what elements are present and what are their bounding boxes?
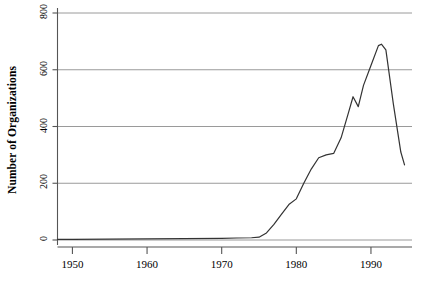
y-tick-label-0: 0 <box>34 233 52 247</box>
gridlines-group <box>58 13 413 240</box>
y-tick-label-text: 800 <box>38 3 49 21</box>
x-tick-label-1950: 1950 <box>47 258 97 270</box>
x-tick-label-1990: 1990 <box>346 258 396 270</box>
y-tick-label-200: 200 <box>34 176 52 190</box>
y-axis-title-wrapper: Number of Organizations <box>0 0 24 260</box>
x-tick-label-1970: 1970 <box>197 258 247 270</box>
chart-figure: Number of Organizations 0200400600800 19… <box>0 0 422 296</box>
x-tick-label-1980: 1980 <box>271 258 321 270</box>
data-series-line <box>58 44 405 239</box>
y-tick-label-text: 0 <box>38 230 49 248</box>
y-axis-title: Number of Organizations <box>6 66 18 194</box>
y-tick-label-text: 200 <box>38 173 49 191</box>
axes-group <box>58 8 413 247</box>
y-tick-label-400: 400 <box>34 120 52 134</box>
y-tick-label-800: 800 <box>34 6 52 20</box>
chart-plot-area <box>0 0 422 296</box>
tick-marks-group <box>53 13 371 254</box>
x-tick-label-1960: 1960 <box>122 258 172 270</box>
data-line-group <box>58 44 405 239</box>
y-tick-label-text: 600 <box>38 59 49 77</box>
y-tick-label-text: 400 <box>38 116 49 134</box>
y-tick-label-600: 600 <box>34 63 52 77</box>
